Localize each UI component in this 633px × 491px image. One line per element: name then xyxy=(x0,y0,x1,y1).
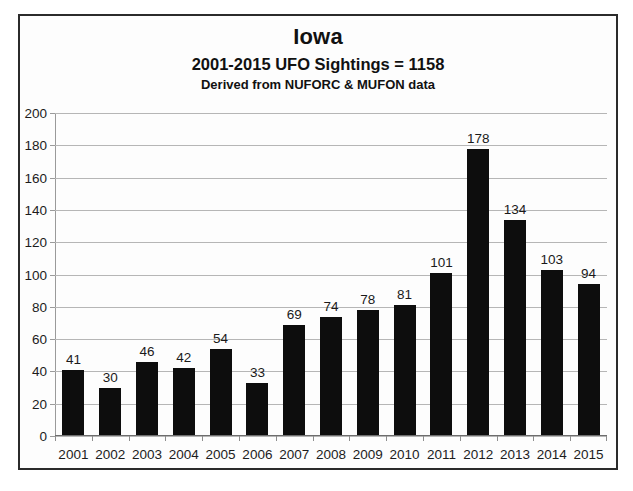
y-axis-label: 120 xyxy=(24,235,47,250)
x-axis-label: 2008 xyxy=(316,447,346,462)
bar-slot[interactable]: 942015 xyxy=(570,113,607,436)
x-axis-label: 2007 xyxy=(279,447,309,462)
x-tick-mark xyxy=(239,436,240,441)
bar-slot[interactable]: 742008 xyxy=(313,113,350,436)
bar[interactable] xyxy=(62,370,84,436)
bar[interactable] xyxy=(246,383,268,436)
x-axis-label: 2012 xyxy=(463,447,493,462)
bar[interactable] xyxy=(467,149,489,436)
x-tick-mark xyxy=(276,436,277,441)
screenshot-root: Iowa 2001-2015 UFO Sightings = 1158 Deri… xyxy=(0,0,633,491)
bar[interactable] xyxy=(136,362,158,436)
y-axis-label: 180 xyxy=(24,138,47,153)
y-axis-label: 100 xyxy=(24,267,47,282)
bar-value-label: 94 xyxy=(581,266,596,281)
x-tick-mark xyxy=(55,436,56,441)
bar-slot[interactable]: 302002 xyxy=(92,113,129,436)
bar-slot[interactable]: 462003 xyxy=(129,113,166,436)
x-axis-label: 2003 xyxy=(132,447,162,462)
bar-value-label: 42 xyxy=(176,350,191,365)
x-axis-label: 2013 xyxy=(500,447,530,462)
bar-slot[interactable]: 1782012 xyxy=(460,113,497,436)
bar[interactable] xyxy=(541,270,563,436)
bar-value-label: 134 xyxy=(504,202,527,217)
x-axis-label: 2004 xyxy=(169,447,199,462)
bar-value-label: 33 xyxy=(250,365,265,380)
chart-subtitle: 2001-2015 UFO Sightings = 1158 xyxy=(20,53,616,75)
bar-slot[interactable]: 812010 xyxy=(386,113,423,436)
gridline xyxy=(55,436,607,437)
bar[interactable] xyxy=(283,325,305,436)
bar-value-label: 101 xyxy=(430,255,453,270)
bar[interactable] xyxy=(99,388,121,436)
bar-value-label: 30 xyxy=(103,370,118,385)
x-axis-label: 2011 xyxy=(427,447,456,462)
bar-value-label: 103 xyxy=(541,252,564,267)
bar-slot[interactable]: 542005 xyxy=(202,113,239,436)
y-axis-label: 60 xyxy=(32,332,47,347)
bar-value-label: 78 xyxy=(360,292,375,307)
chart-frame: Iowa 2001-2015 UFO Sightings = 1158 Deri… xyxy=(18,14,618,470)
x-axis-label: 2009 xyxy=(353,447,383,462)
bar-slot[interactable]: 782009 xyxy=(349,113,386,436)
x-axis-label: 2005 xyxy=(206,447,236,462)
bar-value-label: 81 xyxy=(397,287,412,302)
y-axis-label: 160 xyxy=(24,170,47,185)
x-tick-mark xyxy=(313,436,314,441)
bar[interactable] xyxy=(504,220,526,436)
bar-slot[interactable]: 1342013 xyxy=(497,113,534,436)
x-tick-mark xyxy=(202,436,203,441)
bar-value-label: 178 xyxy=(467,131,490,146)
plot-area: 200180160140120100806040200 412001302002… xyxy=(55,113,607,436)
y-axis-label: 0 xyxy=(39,429,47,444)
bar-slot[interactable]: 692007 xyxy=(276,113,313,436)
chart-source-note: Derived from NUFORC & MUFON data xyxy=(20,76,616,94)
bar-value-label: 69 xyxy=(287,307,302,322)
title-block: Iowa 2001-2015 UFO Sightings = 1158 Deri… xyxy=(20,24,616,94)
x-tick-mark xyxy=(349,436,350,441)
x-tick-mark xyxy=(423,436,424,441)
y-axis-label: 80 xyxy=(32,299,47,314)
x-tick-mark xyxy=(129,436,130,441)
bar-slot[interactable]: 332006 xyxy=(239,113,276,436)
x-tick-mark xyxy=(533,436,534,441)
bar[interactable] xyxy=(210,349,232,436)
x-axis-label: 2014 xyxy=(537,447,567,462)
chart-title: Iowa xyxy=(20,24,616,50)
bar-slot[interactable]: 1032014 xyxy=(533,113,570,436)
y-axis-label: 40 xyxy=(32,364,47,379)
bar-slot[interactable]: 422004 xyxy=(165,113,202,436)
bar[interactable] xyxy=(430,273,452,436)
x-axis-label: 2006 xyxy=(242,447,272,462)
x-tick-mark xyxy=(606,436,607,441)
bar-value-label: 41 xyxy=(66,352,81,367)
x-tick-mark xyxy=(570,436,571,441)
x-axis-line xyxy=(55,435,607,437)
bar-slot[interactable]: 1012011 xyxy=(423,113,460,436)
x-tick-mark xyxy=(497,436,498,441)
x-tick-mark xyxy=(92,436,93,441)
bar[interactable] xyxy=(357,310,379,436)
bar-value-label: 46 xyxy=(139,344,154,359)
x-axis-label: 2010 xyxy=(390,447,420,462)
y-axis-label: 140 xyxy=(24,202,47,217)
bar[interactable] xyxy=(394,305,416,436)
bar[interactable] xyxy=(320,317,342,437)
y-axis-label: 20 xyxy=(32,396,47,411)
bar[interactable] xyxy=(578,284,600,436)
y-axis-label: 200 xyxy=(24,106,47,121)
x-tick-mark xyxy=(386,436,387,441)
x-axis-label: 2001 xyxy=(58,447,88,462)
bar[interactable] xyxy=(173,368,195,436)
bar-value-label: 74 xyxy=(323,299,338,314)
x-tick-mark xyxy=(165,436,166,441)
bar-value-label: 54 xyxy=(213,331,228,346)
x-axis-label: 2015 xyxy=(574,447,604,462)
bar-slot[interactable]: 412001 xyxy=(55,113,92,436)
x-tick-mark xyxy=(460,436,461,441)
x-axis-label: 2002 xyxy=(95,447,125,462)
bars-layer: 4120013020024620034220045420053320066920… xyxy=(55,113,607,436)
